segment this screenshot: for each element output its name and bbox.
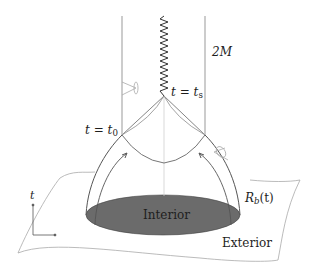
singularity-time-var: t xyxy=(171,85,176,99)
singularity-zigzag xyxy=(160,16,168,96)
light-ray-left-straight xyxy=(122,96,164,135)
boundary-arg: (t) xyxy=(260,191,274,205)
light-cone-icon-upper xyxy=(122,82,138,95)
initial-time-sub: 0 xyxy=(112,128,118,138)
horizon-radius-label: 2M xyxy=(212,46,232,58)
initial-time-eq: = xyxy=(94,123,104,137)
trapped-surface-curve xyxy=(122,135,205,163)
initial-time-var: t xyxy=(85,123,90,137)
singularity-time-label: t = ts xyxy=(171,86,203,98)
singularity-time-eq: = xyxy=(180,85,190,99)
boundary-label: Rb(t) xyxy=(245,192,274,204)
boundary-sub: b xyxy=(254,196,260,206)
time-axis-indicator xyxy=(32,204,56,236)
singularity-time-sub: s xyxy=(198,90,202,100)
light-cone-icon-lower xyxy=(214,145,228,160)
boundary-base: R xyxy=(245,191,254,205)
spacetime-diagram xyxy=(0,0,317,271)
initial-time-label: t = t0 xyxy=(85,124,118,136)
interior-label: Interior xyxy=(143,209,190,221)
exterior-label: Exterior xyxy=(222,237,272,249)
time-axis-label: t xyxy=(30,190,34,201)
light-ray-right-straight xyxy=(164,96,205,135)
